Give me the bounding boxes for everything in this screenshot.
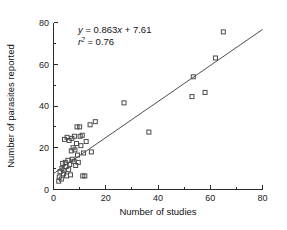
x-tick-label: 20 [101,193,111,203]
y-tick-label: 0 [44,185,49,195]
equation-operator: = 0.863 [85,24,117,35]
y-tick-label: 40 [39,101,49,111]
y-tick-label: 20 [39,143,49,153]
equation-var-y: y [77,24,85,35]
equation-intercept: + 7.61 [122,24,151,35]
y-axis-title: Number of parasites reported [5,44,16,168]
chart-canvas: 020406080 020406080 Number of studies Nu… [0,0,287,230]
x-tick-label: 80 [257,193,267,203]
y-tick-label: 60 [39,60,49,70]
r-squared-value: = 0.76 [85,36,114,47]
scatter-plot-figure: 020406080 020406080 Number of studies Nu… [0,0,287,230]
x-tick-label: 60 [205,193,215,203]
regression-equation-annotation: y = 0.863x + 7.61 [77,24,151,35]
y-tick-label: 80 [39,18,49,28]
x-axis-title: Number of studies [119,206,196,217]
x-tick-label: 40 [153,193,163,203]
x-tick-label: 0 [51,193,56,203]
